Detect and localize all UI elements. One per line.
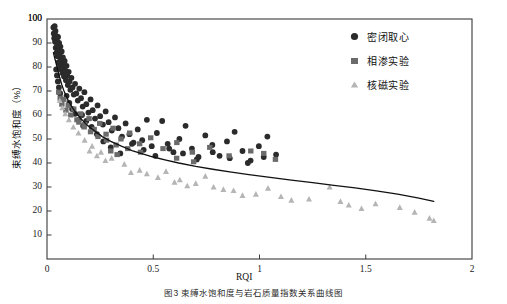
x-tick-label: 1.5 [354,264,378,274]
circle-marker [349,31,360,42]
y-tick-label: 20 [10,205,42,215]
legend-item-0: 密闭取心 [349,24,469,48]
legend-item-1: 相渗实验 [349,48,469,72]
x-tick-label: 2 [460,264,484,274]
axis-ticks [47,43,366,259]
y-tick-label: 10 [10,229,42,239]
x-axis-title: RQI [236,272,252,282]
y-axis-title: 束缚水饱和度（%） [9,65,23,185]
chart-legend: 密闭取心 相渗实验 核磁实验 [349,24,469,96]
legend-item-2: 核磁实验 [349,72,469,96]
legend-label-2: 核磁实验 [367,77,409,92]
y-tick-label: 100 [10,13,42,23]
figure-container: 102030405060708090100100 00.511.52 束缚水饱和… [0,0,507,304]
legend-label-1: 相渗实验 [367,53,409,68]
x-tick-label: 0 [35,264,59,274]
square-marker [349,55,360,66]
figure-caption: 图3 束缚水饱和度与岩石质量指数关系曲线图 [0,286,507,298]
series-points-密闭取心 [50,23,279,166]
triangle-marker [349,79,360,90]
y-tick-label: 90 [10,37,42,47]
legend-label-0: 密闭取心 [367,29,409,44]
x-tick-label: 0.5 [141,264,165,274]
